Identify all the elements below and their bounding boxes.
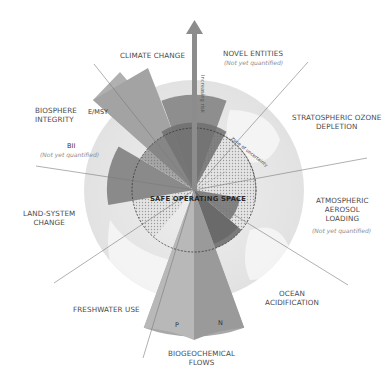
label-ocean-acidification: OCEAN ACIDIFICATION <box>265 289 319 307</box>
bii-sub: (Not yet quantified) <box>40 151 99 158</box>
label-freshwater-use: FRESHWATER USE <box>73 305 140 314</box>
label-biosphere-integrity: BIOSPHERE INTEGRITY <box>35 106 77 124</box>
land-line1: LAND-SYSTEM <box>23 209 75 218</box>
arrow-label: Increasing risk <box>199 75 206 113</box>
biogeo-line1: BIOGEOCHEMICAL <box>168 349 235 358</box>
ozone-line2: DEPLETION <box>292 122 381 131</box>
aerosol-line1: ATMOSPHERIC <box>316 196 369 205</box>
label-nitrogen: N <box>218 319 223 327</box>
safe-operating-space-label: SAFE OPERATING SPACE <box>150 195 246 203</box>
land-line2: CHANGE <box>23 218 75 227</box>
label-phosphorus: P <box>175 321 179 329</box>
label-land-system-change: LAND-SYSTEM CHANGE <box>23 209 75 227</box>
biosphere-line1: BIOSPHERE <box>35 106 77 115</box>
label-biogeochemical-flows: BIOGEOCHEMICAL FLOWS <box>168 349 235 367</box>
ocean-line2: ACIDIFICATION <box>265 298 319 307</box>
aerosol-line2: AEROSOL <box>316 205 369 214</box>
label-novel-entities: NOVEL ENTITIES <box>223 49 283 58</box>
aerosol-sub: (Not yet quantified) <box>312 227 371 234</box>
aerosol-line3: LOADING <box>316 214 369 223</box>
label-emsy: E/MSY <box>88 108 108 116</box>
label-climate-change: CLIMATE CHANGE <box>120 51 185 60</box>
biosphere-line2: INTEGRITY <box>35 115 77 124</box>
diagram-graphic: Increasing risk <box>0 0 386 380</box>
label-stratospheric-ozone: STRATOSPHERIC OZONE DEPLETION <box>292 113 381 131</box>
label-bii: BII <box>67 142 75 150</box>
planetary-boundaries-diagram: Increasing risk CLIMATE CHANGE NOVEL ENT… <box>0 0 386 380</box>
ozone-line1: STRATOSPHERIC OZONE <box>292 113 381 122</box>
biogeo-line2: FLOWS <box>168 358 235 367</box>
novel-entities-sub: (Not yet quantified) <box>224 59 283 66</box>
ocean-line1: OCEAN <box>265 289 319 298</box>
label-atmospheric-aerosol: ATMOSPHERIC AEROSOL LOADING <box>316 196 369 223</box>
